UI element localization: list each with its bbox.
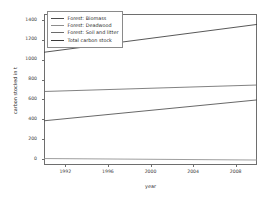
y-tick-mark xyxy=(42,60,44,61)
legend-item: Total carbon stock xyxy=(51,37,118,44)
legend-item-label: Forest: Deadwood xyxy=(68,23,112,28)
x-axis-title: year xyxy=(44,184,257,189)
x-tick-label: 2004 xyxy=(187,170,199,175)
x-tick-label: 1996 xyxy=(102,170,114,175)
x-tick-label: 1992 xyxy=(59,170,71,175)
carbon-stock-line-chart: 0200400600800100012001400 19921996200020… xyxy=(0,0,268,201)
legend-item-label: Total carbon stock xyxy=(68,38,112,43)
legend-color-swatch xyxy=(51,40,64,41)
y-tick-mark xyxy=(42,40,44,41)
y-tick-label: 800 xyxy=(28,77,37,82)
x-tick-mark xyxy=(151,165,152,167)
x-tick-mark xyxy=(193,165,194,167)
chart-legend: Forest: BiomassForest: DeadwoodForest: S… xyxy=(47,11,123,48)
y-tick-mark xyxy=(42,99,44,100)
y-tick-mark xyxy=(42,80,44,81)
series-line-1 xyxy=(44,159,257,160)
y-tick-label: 1000 xyxy=(25,57,37,62)
x-tick-mark xyxy=(65,165,66,167)
series-line-2 xyxy=(44,85,257,91)
x-tick-mark xyxy=(108,165,109,167)
legend-color-swatch xyxy=(51,25,64,26)
y-tick-label: 400 xyxy=(28,117,37,122)
y-tick-label: 600 xyxy=(28,97,37,102)
y-tick-mark xyxy=(42,20,44,21)
y-tick-label: 1400 xyxy=(25,18,37,23)
legend-item: Forest: Biomass xyxy=(51,14,118,21)
y-tick-label: 1200 xyxy=(25,37,37,42)
y-axis-title-holder: carbon stocked in t xyxy=(6,10,20,170)
legend-item-label: Forest: Biomass xyxy=(68,16,107,21)
y-tick-mark xyxy=(42,119,44,120)
legend-item: Forest: Soil and litter xyxy=(51,29,118,36)
y-axis-title: carbon stocked in t xyxy=(13,54,18,128)
x-tick-mark xyxy=(236,165,237,167)
legend-item-label: Forest: Soil and litter xyxy=(68,30,119,35)
y-tick-mark xyxy=(42,139,44,140)
y-tick-label: 0 xyxy=(34,157,37,162)
x-tick-label: 2000 xyxy=(145,170,157,175)
y-tick-label: 200 xyxy=(28,137,37,142)
legend-color-swatch xyxy=(51,18,64,19)
x-tick-label: 2008 xyxy=(230,170,242,175)
legend-color-swatch xyxy=(51,32,64,33)
series-line-0 xyxy=(44,100,257,121)
y-tick-mark xyxy=(42,159,44,160)
legend-item: Forest: Deadwood xyxy=(51,22,118,29)
